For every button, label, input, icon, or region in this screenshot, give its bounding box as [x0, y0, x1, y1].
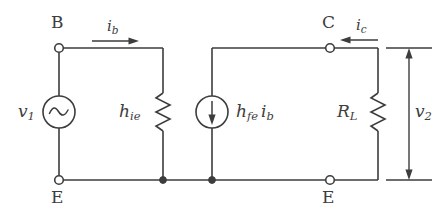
current-arrow-ic-head [340, 36, 351, 43]
circuit-schematic-svg [0, 0, 443, 218]
label-hfe-subscript: fe [247, 109, 258, 123]
label-v2-subscript: 2 [425, 109, 432, 123]
label-dependent-current-source: hfeib [236, 103, 274, 123]
sine-wave-icon [50, 108, 69, 115]
label-current-ib: ib [107, 19, 119, 36]
dimension-arrowhead-up-v2 [405, 48, 412, 59]
label-terminal-base: B [51, 14, 64, 31]
junction-dot-current-source [209, 177, 216, 184]
label-current-ib-subscript: b [112, 24, 119, 36]
label-output-voltage-v2: v2 [415, 103, 432, 123]
label-resistor-rl: RL [337, 103, 357, 123]
label-terminal-collector: C [322, 14, 336, 31]
dimension-arrowhead-down-v2 [405, 170, 412, 181]
node-terminal-base [55, 44, 64, 53]
label-hie-subscript: ie [130, 109, 140, 123]
resistor-rl-zigzag [371, 93, 385, 131]
current-arrow-ib-head [129, 37, 140, 44]
node-terminal-emitter-left [55, 176, 64, 185]
current-source-arrowhead-down [208, 115, 215, 126]
label-terminal-emitter-right: E [322, 189, 335, 206]
label-current-ic: ic [356, 18, 367, 35]
label-v1-symbol: v [18, 101, 28, 121]
resistor-hie-zigzag [156, 93, 170, 131]
label-terminal-emitter-left: E [51, 189, 64, 206]
circuit-diagram-figure: B E C E ib ic v1 hie hfeib RL v2 [0, 0, 443, 218]
label-hfe-current-subscript: b [266, 109, 273, 123]
label-resistor-hie: hie [119, 103, 140, 123]
junction-dot-hie [160, 177, 167, 184]
label-v2-symbol: v [415, 101, 425, 121]
label-hfe-symbol: h [236, 101, 247, 121]
node-terminal-emitter-right [326, 176, 335, 185]
label-current-ic-subscript: c [361, 23, 367, 35]
node-terminal-collector [326, 44, 335, 53]
label-hie-symbol: h [119, 101, 130, 121]
label-v1-subscript: 1 [28, 109, 35, 123]
label-rl-subscript: L [350, 109, 358, 123]
label-voltage-source-v1: v1 [18, 103, 35, 123]
label-rl-symbol: R [337, 101, 350, 121]
